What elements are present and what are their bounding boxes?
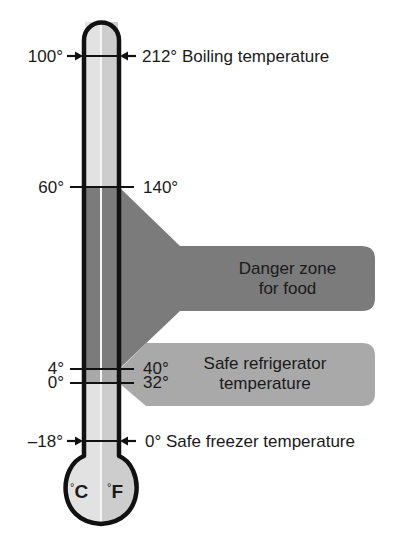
danger-zone-line2: for food <box>200 279 375 299</box>
fahrenheit-unit-label: °F <box>107 481 123 503</box>
danger-zone-label: Danger zone for food <box>200 259 375 299</box>
celsius-label-freezer: –18° <box>28 433 63 450</box>
fahrenheit-value: 212° <box>142 47 177 66</box>
fahrenheit-label-boiling: 212° Boiling temperature <box>142 48 329 65</box>
celsius-label-boiling: 100° <box>28 48 63 65</box>
fridge-zone-line2: temperature <box>180 374 350 394</box>
fahrenheit-value: 0° <box>145 432 161 451</box>
celsius-unit-label: °C <box>70 481 88 503</box>
fahrenheit-label-danger-top: 140° <box>143 179 178 196</box>
fahrenheit-label-freezing: 32° <box>143 374 169 391</box>
fridge-zone-label: Safe refrigerator temperature <box>180 354 350 394</box>
fridge-zone-line1: Safe refrigerator <box>180 354 350 374</box>
thermometer-tube <box>85 22 118 520</box>
celsius-label-freezing: 0° <box>48 374 64 391</box>
danger-zone-line1: Danger zone <box>200 259 375 279</box>
celsius-label-danger-top: 60° <box>38 179 64 196</box>
fahrenheit-label-freezer: 0° Safe freezer temperature <box>145 433 355 450</box>
mark-description: Safe freezer temperature <box>166 432 355 451</box>
mark-description: Boiling temperature <box>182 47 329 66</box>
